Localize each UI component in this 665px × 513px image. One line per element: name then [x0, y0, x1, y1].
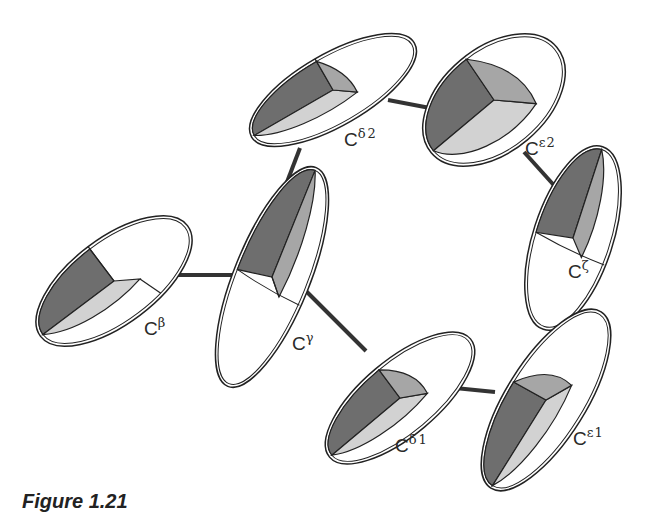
figure-caption: Figure 1.21 [22, 490, 128, 513]
label-cepsilon2: Cε2 [525, 135, 555, 159]
bond-ce1-cd1 [455, 388, 495, 392]
bond-cd2-ce2 [388, 100, 430, 108]
ellipsoid-cepsilon2 [398, 7, 590, 192]
ellipsoid-czeta [505, 134, 640, 341]
ellipsoid-cdelta2 [234, 12, 433, 168]
ellipsoid-cbeta [15, 191, 214, 370]
label-cdelta2: Cδ2 [344, 126, 376, 150]
label-cdelta1: Cδ1 [395, 432, 427, 456]
label-cepsilon1: Cε1 [573, 425, 603, 449]
ellipsoid-cdelta1 [305, 310, 495, 486]
label-cgamma: Cγ [292, 330, 314, 354]
label-cbeta: Cβ [144, 315, 165, 339]
